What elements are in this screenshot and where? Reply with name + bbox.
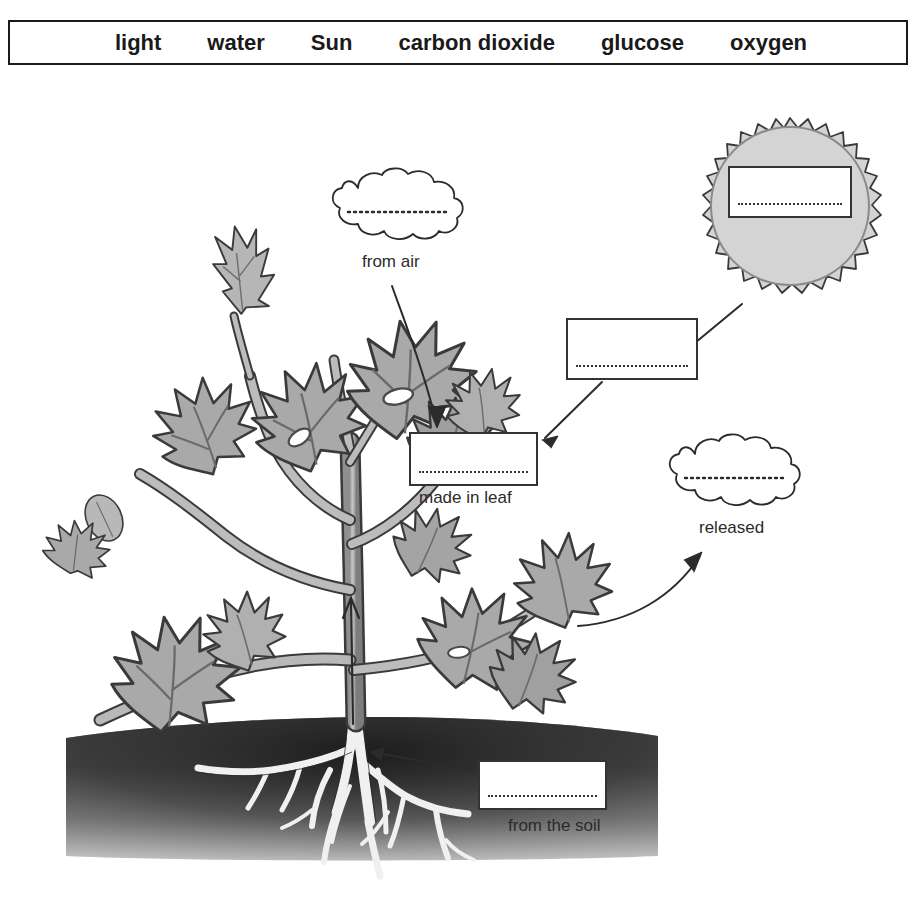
arrow-light-box-to-leaf-box [542, 382, 602, 448]
caption-released: released [699, 518, 764, 538]
sun-icon [668, 110, 912, 326]
answer-box-made-in-leaf[interactable] [409, 432, 538, 486]
photosynthesis-diagram: from air released made in leaf from the … [0, 70, 918, 906]
dotted-writing-line [419, 471, 528, 473]
cloud-shape-icon [326, 166, 468, 242]
caption-made-in-leaf: made in leaf [419, 488, 512, 508]
word-bank-item-glucose[interactable]: glucose [601, 30, 684, 56]
caption-from-air: from air [362, 252, 420, 272]
dotted-writing-line [738, 203, 842, 205]
word-bank-item-water[interactable]: water [207, 30, 264, 56]
word-bank-item-sun[interactable]: Sun [311, 30, 353, 56]
word-bank-item-oxygen[interactable]: oxygen [730, 30, 807, 56]
cloud-shape-icon [663, 432, 805, 508]
dotted-writing-line [488, 795, 597, 797]
word-bank-item-light[interactable]: light [115, 30, 161, 56]
dotted-writing-line [576, 365, 688, 367]
cloud-released[interactable] [663, 432, 805, 508]
sun-figure [668, 110, 912, 326]
caption-from-the-soil: from the soil [508, 816, 601, 836]
answer-box-from-the-soil[interactable] [478, 760, 607, 810]
cloud-from-air[interactable] [326, 166, 468, 242]
word-bank-item-carbon-dioxide[interactable]: carbon dioxide [398, 30, 554, 56]
word-bank: light water Sun carbon dioxide glucose o… [8, 20, 908, 65]
answer-box-light[interactable] [566, 318, 698, 380]
answer-box-sun[interactable] [728, 166, 852, 218]
